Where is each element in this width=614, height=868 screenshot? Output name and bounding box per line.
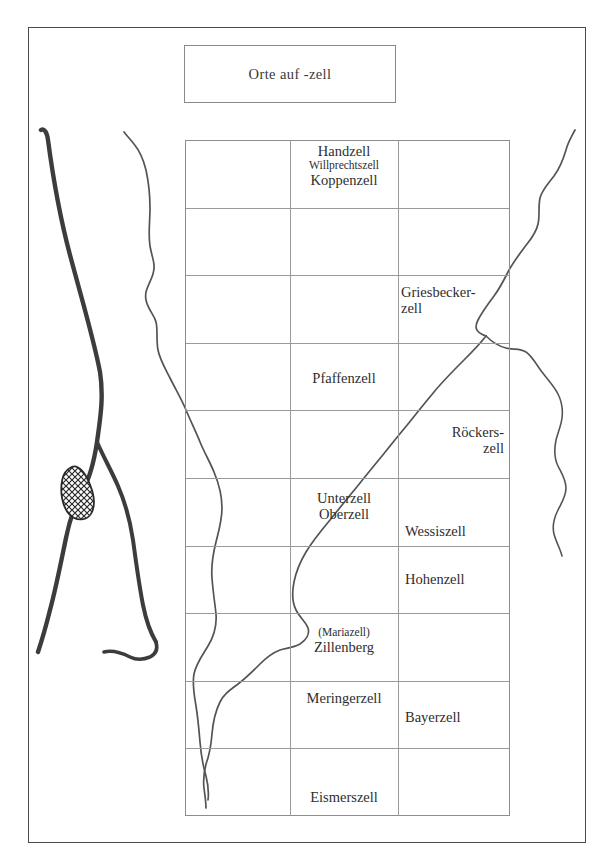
- map-title-box: Orte auf -zell: [184, 45, 396, 103]
- place-label-oberzell: Oberzell: [290, 506, 398, 522]
- grid-line-h-3: [185, 343, 510, 344]
- place-label-meringerzell-group: Meringerzell: [288, 690, 400, 706]
- place-label-griesbeckerzell-group: Griesbecker- zell: [401, 284, 511, 316]
- place-label-willprechtszell: Willprechtszell: [290, 159, 398, 172]
- place-label-hohenzell-group: Hohenzell: [405, 571, 513, 587]
- grid-line-h-10: [185, 815, 510, 816]
- place-label-handzell: Handzell: [290, 143, 398, 159]
- map-figure: Orte auf -zell: [0, 0, 614, 868]
- grid-line-h-8: [185, 681, 510, 682]
- place-label-roeckerszell-line1: Röckers-: [398, 424, 504, 440]
- grid-line-h-6: [185, 546, 510, 547]
- place-label-mariazell: (Mariazell): [290, 626, 398, 639]
- place-label-handzell-group: Handzell Willprechtszell Koppenzell: [290, 143, 398, 188]
- grid-line-h-4: [185, 410, 510, 411]
- grid-line-h-0: [185, 140, 510, 141]
- place-label-mariazell-zillenberg-group: (Mariazell) Zillenberg: [290, 626, 398, 655]
- place-label-koppenzell: Koppenzell: [290, 172, 398, 188]
- grid-line-h-7: [185, 613, 510, 614]
- grid-line-h-1: [185, 208, 510, 209]
- place-label-eismerszell-group: Eismerszell: [290, 789, 398, 805]
- place-label-meringerzell: Meringerzell: [288, 690, 400, 706]
- place-label-eismerszell: Eismerszell: [290, 789, 398, 805]
- place-label-unterzell: Unterzell: [290, 490, 398, 506]
- grid-line-v-1: [290, 140, 291, 816]
- place-label-wessiszell-group: Wessiszell: [405, 523, 513, 539]
- place-label-pfaffenzell-group: Pfaffenzell: [290, 370, 398, 386]
- grid-line-h-5: [185, 478, 510, 479]
- place-label-pfaffenzell: Pfaffenzell: [290, 370, 398, 386]
- place-label-zillenberg: Zillenberg: [290, 639, 398, 655]
- place-label-bayerzell-group: Bayerzell: [405, 709, 513, 725]
- place-label-griesbeckerzell-line2: zell: [401, 300, 511, 316]
- place-label-bayerzell: Bayerzell: [405, 709, 513, 725]
- grid-line-v-0: [185, 140, 186, 816]
- grid-line-v-2: [398, 140, 399, 816]
- place-label-griesbeckerzell-line1: Griesbecker-: [401, 284, 511, 300]
- place-label-roeckerszell-line2: zell: [398, 440, 504, 456]
- place-label-unterzell-oberzell-group: Unterzell Oberzell: [290, 490, 398, 522]
- place-label-hohenzell: Hohenzell: [405, 571, 513, 587]
- grid-line-h-9: [185, 748, 510, 749]
- grid-line-h-2: [185, 275, 510, 276]
- place-label-wessiszell: Wessiszell: [405, 523, 513, 539]
- map-title-text: Orte auf -zell: [249, 66, 332, 83]
- place-label-roeckerszell-group: Röckers- zell: [398, 424, 504, 456]
